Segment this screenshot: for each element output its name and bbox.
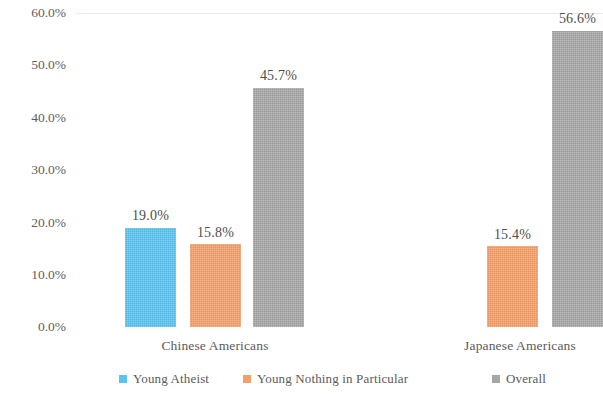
x-axis-category-japanese-americans: Japanese Americans bbox=[437, 338, 603, 354]
bar-chinese-overall bbox=[253, 88, 304, 327]
bar-japanese-overall bbox=[552, 31, 603, 327]
legend-swatch-icon bbox=[119, 375, 127, 383]
y-axis: 60.0% 50.0% 40.0% 30.0% 20.0% 10.0% 0.0% bbox=[0, 0, 70, 402]
data-label-chinese-young-atheist: 19.0% bbox=[125, 208, 176, 224]
legend-item-overall[interactable]: Overall bbox=[492, 371, 546, 387]
legend-swatch-icon bbox=[243, 375, 251, 383]
legend-item-young-atheist[interactable]: Young Atheist bbox=[119, 371, 209, 387]
plot-area: 19.0% 15.8% 45.7% 15.4% 56.6% bbox=[76, 13, 603, 327]
x-axis-category-chinese-americans: Chinese Americans bbox=[125, 338, 305, 354]
y-axis-tick-label: 10.0% bbox=[31, 267, 66, 283]
legend-swatch-icon bbox=[492, 375, 500, 383]
chart-legend: Young Atheist Young Nothing in Particula… bbox=[0, 371, 603, 393]
bar-japanese-young-nothing-in-particular bbox=[487, 246, 538, 327]
data-label-chinese-young-nothing-in-particular: 15.8% bbox=[190, 225, 241, 241]
bar-chinese-young-atheist bbox=[125, 228, 176, 327]
y-axis-tick-label: 50.0% bbox=[31, 57, 66, 73]
legend-item-young-nothing-in-particular[interactable]: Young Nothing in Particular bbox=[243, 371, 408, 387]
data-label-japanese-young-nothing-in-particular: 15.4% bbox=[487, 227, 538, 243]
y-axis-tick-label: 30.0% bbox=[31, 162, 66, 178]
legend-label: Young Nothing in Particular bbox=[257, 371, 408, 387]
y-axis-tick-label: 20.0% bbox=[31, 215, 66, 231]
data-label-chinese-overall: 45.7% bbox=[253, 68, 304, 84]
y-axis-tick-label: 0.0% bbox=[38, 319, 66, 335]
y-axis-tick-label: 60.0% bbox=[31, 5, 66, 21]
legend-label: Young Atheist bbox=[133, 371, 209, 387]
legend-label: Overall bbox=[506, 371, 546, 387]
data-label-japanese-overall: 56.6% bbox=[552, 11, 603, 27]
y-axis-tick-label: 40.0% bbox=[31, 110, 66, 126]
bar-chart: 60.0% 50.0% 40.0% 30.0% 20.0% 10.0% 0.0%… bbox=[0, 0, 603, 402]
gridline-top bbox=[76, 13, 603, 14]
bar-chinese-young-nothing-in-particular bbox=[190, 244, 241, 327]
